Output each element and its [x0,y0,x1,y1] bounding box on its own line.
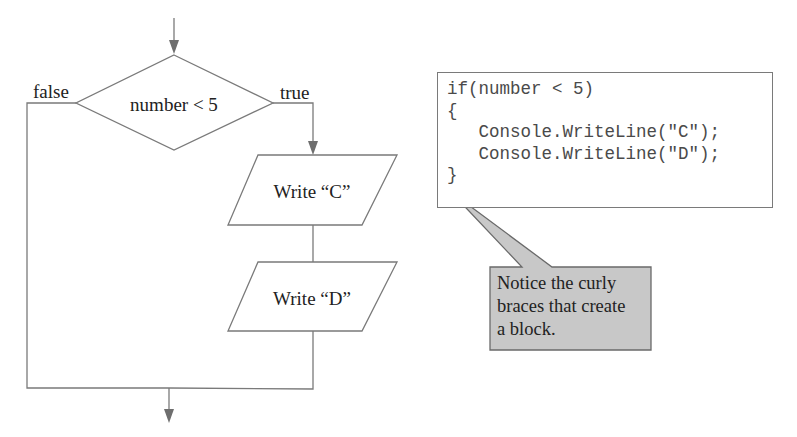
merge-line [169,331,313,389]
false-label: false [33,82,69,101]
callout-line: a block. [497,318,649,341]
code-line: Console.WriteLine("C"); [447,122,772,144]
entry-arrow [169,18,179,54]
step-write-c-label: Write “C” [252,182,372,201]
code-line: if(number < 5) [447,79,772,101]
exit-arrow [164,388,174,423]
decision-condition: number < 5 [114,95,234,114]
code-line: { [447,101,772,123]
true-branch-arrow [273,103,318,155]
false-branch-line [27,103,169,388]
code-line: } [447,165,772,187]
true-label: true [280,83,310,102]
callout-line: braces that create [497,295,649,318]
callout-note: Notice the curly braces that create a bl… [497,272,649,341]
callout-line: Notice the curly [497,272,649,295]
if-statement-diagram: false true number < 5 Write “C” Write “D… [0,0,797,437]
step-write-d-label: Write “D” [252,289,372,308]
code-line: Console.WriteLine("D"); [447,144,772,166]
flowchart-graphics [0,0,797,437]
code-snippet-box: if(number < 5) { Console.WriteLine("C");… [437,72,773,208]
